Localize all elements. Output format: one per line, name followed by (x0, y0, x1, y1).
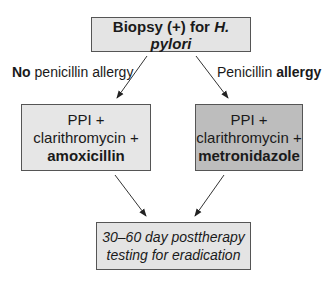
branch-label-no-allergy-rest: penicillin allergy (31, 64, 134, 80)
node-amoxicillin-line2: clarithromycin + (33, 129, 138, 147)
node-biopsy-text: Biopsy (+) for H. pylori (92, 18, 250, 52)
node-posttherapy-line2: testing for eradication (107, 246, 241, 264)
node-metronidazole-regimen: PPI + clarithromycin + metronidazole (195, 104, 303, 171)
branch-label-allergy: Penicillin allergy (217, 64, 321, 80)
node-amoxicillin-line1: PPI + (67, 111, 104, 129)
node-amoxicillin-line3: amoxicillin (47, 147, 125, 165)
arrow-right-to-bottom (195, 175, 224, 216)
branch-label-no-allergy-bold: No (12, 64, 31, 80)
node-biopsy-text-plain: Biopsy (+) for (113, 18, 214, 35)
branch-label-allergy-bold: allergy (276, 64, 321, 80)
branch-label-no-allergy: No penicillin allergy (12, 64, 133, 80)
node-amoxicillin-regimen: PPI + clarithromycin + amoxicillin (21, 104, 151, 171)
node-posttherapy-line1: 30–60 day posttherapy (102, 228, 244, 246)
node-posttherapy-testing: 30–60 day posttherapy testing for eradic… (96, 222, 251, 270)
node-biopsy-positive: Biopsy (+) for H. pylori (91, 17, 251, 52)
branch-label-allergy-rest: Penicillin (217, 64, 276, 80)
node-metronidazole-line2: clarithromycin + (196, 129, 301, 147)
node-metronidazole-line1: PPI + (230, 111, 267, 129)
node-metronidazole-line3: metronidazole (198, 147, 300, 165)
arrow-left-to-bottom (115, 175, 146, 216)
